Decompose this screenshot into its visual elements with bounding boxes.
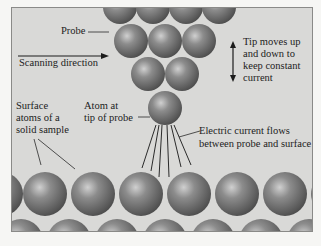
probe-label: Probe [61,25,86,36]
surface-atoms-bottom [12,219,313,232]
tip-motion-arrow [230,41,236,82]
current-label-2: between probe and surface [199,138,311,149]
tip-moves-label-4: current [243,72,273,83]
atom-tip-label-1: Atom at [84,100,118,111]
current-lines [142,125,191,177]
tip-moves-label-2: and down to [243,48,295,59]
surface-atoms-label-3: solid sample [16,124,69,135]
tip-moves-label-1: Tip moves up [243,36,300,47]
scanning-direction-label: Scanning direction [19,57,98,68]
current-leader [179,131,200,137]
surface-atoms-label-2: atoms of a [16,112,60,123]
surface-atoms-label-1: Surface [16,100,48,111]
surface-leader-1 [34,139,41,165]
atom-tip-label-2: tip of probe [84,112,133,123]
current-label-1: Electric current flows [199,125,290,136]
surface-atoms-top [12,172,313,216]
surface-leader-2 [38,139,75,169]
tip-moves-label-3: keep constant [243,60,300,71]
probe-atoms [103,8,236,125]
